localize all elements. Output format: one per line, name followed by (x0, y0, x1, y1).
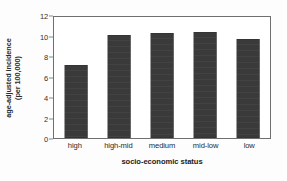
x-axis-tick-label-high: high (68, 141, 82, 150)
bar-slot (140, 17, 183, 138)
bar-high[interactable] (64, 65, 87, 138)
x-axis-title: socio-economic status (53, 157, 271, 166)
bar-slot (54, 17, 97, 138)
chart-screenshot: age-adjusted incidence (per 100,000) 121… (0, 0, 287, 181)
x-axis-tick-label-high-mid: high-mid (104, 141, 132, 150)
x-axis-tick-label-mid-low: mid-low (193, 141, 218, 150)
bar-slot (227, 17, 270, 138)
bar-low[interactable] (237, 39, 260, 138)
bar-medium[interactable] (150, 33, 173, 138)
bar-slot (97, 17, 140, 138)
bar-mid-low[interactable] (194, 32, 217, 138)
bar-slot (184, 17, 227, 138)
x-axis-tick-label-low: low (244, 141, 255, 150)
bar-high-mid[interactable] (107, 35, 130, 138)
plot-area (53, 16, 271, 139)
bars-container (54, 17, 270, 138)
x-axis-tick-labels: highhigh-midmediummid-lowlow (53, 141, 271, 153)
x-axis-tick-label-medium: medium (149, 141, 175, 150)
